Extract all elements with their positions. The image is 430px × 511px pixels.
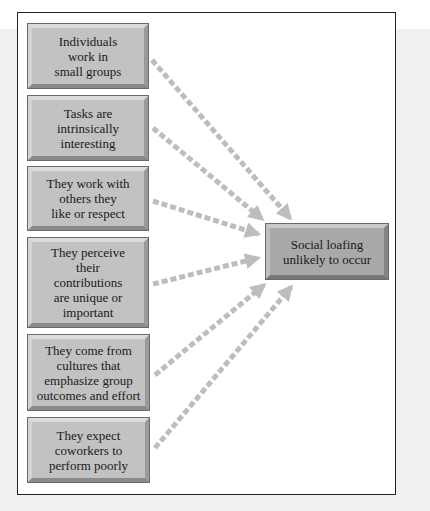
source-label: They expect coworkers to perform poorly <box>45 428 132 473</box>
source-box-intrinsic-tasks: Tasks are intrinsically interesting <box>28 96 148 160</box>
source-label: They perceive their contributions are un… <box>47 245 129 320</box>
target-box-social-loafing: Social loafing unlikely to occur <box>266 224 388 279</box>
source-box-liked-coworkers: They work with others they like or respe… <box>28 167 148 230</box>
source-label: They come from cultures that emphasize g… <box>33 343 145 403</box>
source-box-unique-contributions: They perceive their contributions are un… <box>28 238 148 327</box>
source-box-poor-coworkers: They expect coworkers to perform poorly <box>28 418 149 482</box>
source-label: Tasks are intrinsically interesting <box>53 106 123 151</box>
source-box-collectivist-cultures: They come from cultures that emphasize g… <box>28 335 149 410</box>
source-label: They work with others they like or respe… <box>42 176 133 221</box>
source-label: Individuals work in small groups <box>51 34 126 79</box>
arrow-s5-to-target <box>155 285 264 375</box>
arrow-s2-to-target <box>153 128 262 219</box>
arrow-s4-to-target <box>153 258 258 284</box>
arrow-s3-to-target <box>153 201 258 234</box>
arrow-s1-to-target <box>152 60 290 218</box>
arrow-s6-to-target <box>155 287 291 448</box>
source-box-small-groups: Individuals work in small groups <box>28 24 148 88</box>
target-label: Social loafing unlikely to occur <box>279 237 375 267</box>
